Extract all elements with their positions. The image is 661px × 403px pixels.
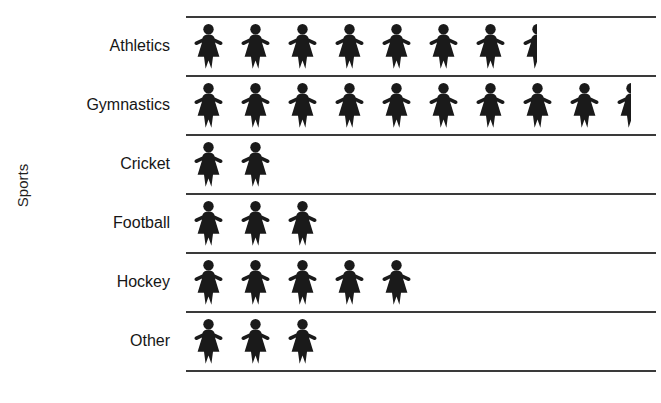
chart-row: Athletics	[186, 16, 656, 75]
chart-row: Gymnastics	[186, 75, 656, 134]
plot-area: AthleticsGymnasticsCricketFootballHockey…	[186, 16, 656, 384]
person-figure-icon	[570, 82, 599, 128]
person-figure-icon	[382, 259, 411, 305]
person-figure-icon	[241, 259, 270, 305]
person-figure-icon	[288, 318, 317, 364]
person-figure-icon	[194, 23, 223, 69]
category-label-football: Football	[2, 214, 170, 232]
category-label-cricket: Cricket	[2, 155, 170, 173]
person-figure-icon	[194, 318, 223, 364]
icon-strip	[194, 193, 335, 252]
person-figure-icon	[288, 259, 317, 305]
category-label-other: Other	[2, 332, 170, 350]
person-figure-icon	[241, 200, 270, 246]
person-figure-icon	[335, 259, 364, 305]
person-figure-icon	[429, 23, 458, 69]
grid-rule	[186, 370, 656, 372]
person-figure-icon	[241, 318, 270, 364]
person-figure-icon	[288, 82, 317, 128]
person-figure-icon	[335, 23, 364, 69]
person-figure-icon	[476, 23, 505, 69]
chart-row: Other	[186, 311, 656, 370]
person-figure-icon	[288, 200, 317, 246]
icon-strip	[194, 311, 335, 370]
person-figure-icon	[476, 82, 505, 128]
icon-strip	[194, 75, 649, 134]
person-figure-icon	[241, 141, 270, 187]
person-figure-icon	[194, 141, 223, 187]
category-label-gymnastics: Gymnastics	[2, 96, 170, 114]
person-figure-icon	[194, 200, 223, 246]
person-figure-icon	[382, 23, 411, 69]
person-figure-icon	[194, 82, 223, 128]
person-figure-icon	[335, 82, 364, 128]
chart-row: Hockey	[186, 252, 656, 311]
person-figure-icon	[241, 82, 270, 128]
person-figure-icon	[523, 82, 552, 128]
person-figure-icon	[241, 23, 270, 69]
person-figure-half-icon	[523, 23, 537, 69]
icon-strip	[194, 134, 288, 193]
person-figure-icon	[288, 23, 317, 69]
person-figure-icon	[429, 82, 458, 128]
category-label-athletics: Athletics	[2, 37, 170, 55]
person-figure-icon	[382, 82, 411, 128]
category-label-hockey: Hockey	[2, 273, 170, 291]
chart-row: Cricket	[186, 134, 656, 193]
icon-strip	[194, 16, 555, 75]
person-figure-half-icon	[617, 82, 631, 128]
chart-row: Football	[186, 193, 656, 252]
pictograph-chart: Sports AthleticsGymnasticsCricketFootbal…	[0, 0, 661, 403]
person-figure-icon	[194, 259, 223, 305]
icon-strip	[194, 252, 429, 311]
